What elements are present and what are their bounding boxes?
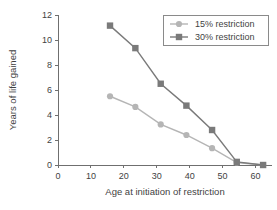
data-point <box>132 104 138 110</box>
data-point <box>158 121 164 127</box>
data-point <box>107 93 113 99</box>
x-tick-label: 20 <box>119 171 129 181</box>
x-tick-label: 40 <box>185 171 195 181</box>
data-point <box>107 22 113 28</box>
data-point <box>260 162 266 168</box>
y-axis-title: Years of life gained <box>7 50 18 130</box>
x-axis-title: Age at initiation of restriction <box>105 186 224 197</box>
y-tick-label: 2 <box>47 135 52 145</box>
x-tick-label: 60 <box>251 171 261 181</box>
legend-label: 30% restriction <box>195 32 255 42</box>
y-tick-label: 8 <box>47 60 52 70</box>
data-point <box>234 159 240 165</box>
x-tick-label: 10 <box>86 171 96 181</box>
y-tick-label: 10 <box>42 35 52 45</box>
legend-marker-square-icon <box>176 34 182 40</box>
y-tick-label: 0 <box>47 160 52 170</box>
data-point <box>158 81 164 87</box>
data-point <box>183 132 189 138</box>
data-point <box>132 45 138 51</box>
x-tick-label: 0 <box>55 171 60 181</box>
y-tick-label: 12 <box>42 10 52 20</box>
data-point <box>209 127 215 133</box>
data-point <box>183 102 189 108</box>
chart-container: 0246810120102030405060Age at initiation … <box>0 0 277 210</box>
line-chart: 0246810120102030405060Age at initiation … <box>0 0 277 210</box>
legend-label: 15% restriction <box>195 19 255 29</box>
data-point <box>209 145 215 151</box>
legend-marker-circle-icon <box>176 21 182 27</box>
y-tick-label: 4 <box>47 110 52 120</box>
y-tick-label: 6 <box>47 85 52 95</box>
x-tick-label: 30 <box>152 171 162 181</box>
x-tick-label: 50 <box>218 171 228 181</box>
